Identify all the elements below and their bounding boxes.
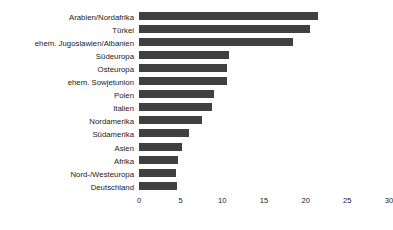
category-axis-labels: Arabien/NordafrikaTürkeiehem. Jugoslawie… [0, 11, 134, 194]
bar [139, 169, 176, 177]
bar-row [139, 142, 389, 155]
bar [139, 182, 177, 190]
bar-row [139, 155, 389, 168]
x-tick-label: 5 [179, 196, 183, 206]
bar-row [139, 89, 389, 102]
category-label: Südeuropa [96, 50, 134, 63]
category-label: Polen [114, 89, 134, 102]
x-tick-label: 30 [385, 196, 393, 206]
x-tick-label: 20 [301, 196, 309, 206]
bar [139, 12, 318, 20]
x-tick-label: 15 [260, 196, 268, 206]
bar [139, 129, 189, 137]
bar-row [139, 76, 389, 89]
x-tick-label: 25 [343, 196, 351, 206]
bar [139, 51, 229, 59]
category-label: Afrika [114, 155, 134, 168]
category-label: ehem. Jugoslawien/Albanien [35, 37, 134, 50]
bar [139, 116, 202, 124]
bar [139, 77, 227, 85]
bar-row [139, 115, 389, 128]
category-label: ehem. Sowjetunion [68, 76, 134, 89]
category-label: Arabien/Nordafrika [69, 11, 134, 24]
bar-row [139, 181, 389, 194]
bar-row [139, 102, 389, 115]
category-label: Südamerika [92, 128, 134, 141]
bar [139, 25, 310, 33]
plot-area [139, 11, 389, 194]
bar-row [139, 128, 389, 141]
bar-row [139, 63, 389, 76]
bar-row [139, 11, 389, 24]
category-label: Deutschland [91, 181, 134, 194]
bar-row [139, 37, 389, 50]
bar-row [139, 24, 389, 37]
category-label: Italien [113, 102, 134, 115]
category-label: Osteuropa [98, 63, 134, 76]
bar [139, 38, 293, 46]
bar [139, 143, 182, 151]
x-tick-label: 10 [218, 196, 226, 206]
category-label: Nordamerika [89, 115, 134, 128]
bar [139, 156, 178, 164]
category-label: Nord-/Westeuropa [70, 168, 134, 181]
x-tick-label: 0 [137, 196, 141, 206]
category-label: Asien [114, 142, 134, 155]
bar [139, 103, 212, 111]
bar [139, 64, 227, 72]
bar [139, 90, 214, 98]
category-label: Türkei [112, 24, 134, 37]
bar-row [139, 168, 389, 181]
bar-row [139, 50, 389, 63]
x-axis: 051015202530 [139, 196, 389, 212]
